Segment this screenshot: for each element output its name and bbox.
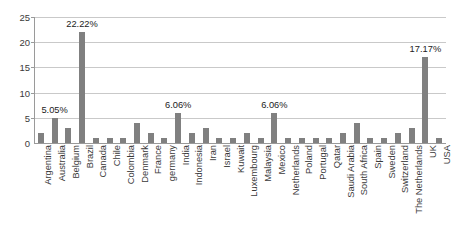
x-axis-category-label: Indonesia xyxy=(195,145,204,185)
bar xyxy=(299,138,305,143)
bar xyxy=(381,138,387,143)
bar-slot xyxy=(309,17,323,143)
bar-series: 5.05%22.22%6.06%6.06%17.17% xyxy=(34,17,446,143)
y-axis-tick-label: 15 xyxy=(0,62,30,73)
x-axis-category-label: germany xyxy=(168,145,177,181)
x-axis-category-label: Qatar xyxy=(333,145,342,168)
x-axis-category-label: Spain xyxy=(374,145,383,169)
bar xyxy=(189,133,195,143)
bar xyxy=(271,113,277,143)
bar-slot xyxy=(185,17,199,143)
x-axis-category-label: Luxembourg xyxy=(250,145,259,197)
bar-slot: 22.22% xyxy=(75,17,89,143)
bar-slot xyxy=(240,17,254,143)
y-axis-tick-label: 20 xyxy=(0,37,30,48)
x-axis-category-label: France xyxy=(154,145,163,174)
bar xyxy=(313,138,319,143)
x-axis-category-label: South Africa xyxy=(360,145,369,195)
bar xyxy=(340,133,346,143)
bar-slot xyxy=(391,17,405,143)
bar-slot: 5.05% xyxy=(48,17,62,143)
x-axis-category-label: Chile xyxy=(113,145,122,166)
x-axis-category-label: India xyxy=(182,145,191,165)
x-axis-line xyxy=(34,143,446,144)
x-axis-category-label: Argentina xyxy=(44,145,53,185)
x-axis-category-label: Denmark xyxy=(141,145,150,183)
bar-slot xyxy=(336,17,350,143)
bar-chart: 0510152025 5.05%22.22%6.06%6.06%17.17% A… xyxy=(0,0,452,235)
x-axis-category-label: Switzerland xyxy=(401,145,410,193)
y-axis-tick-label: 0 xyxy=(0,138,30,149)
bar xyxy=(161,138,167,143)
bar xyxy=(93,138,99,143)
bar-slot xyxy=(34,17,48,143)
bar xyxy=(258,138,264,143)
bar-slot xyxy=(295,17,309,143)
bar-slot xyxy=(254,17,268,143)
bar-slot xyxy=(89,17,103,143)
bar-slot xyxy=(432,17,446,143)
bar-slot xyxy=(281,17,295,143)
bar-slot xyxy=(130,17,144,143)
bar-slot xyxy=(377,17,391,143)
x-axis-category-label: Australia xyxy=(58,145,67,181)
bar-slot: 6.06% xyxy=(267,17,281,143)
bar xyxy=(395,133,401,143)
bar-slot xyxy=(322,17,336,143)
bar-slot xyxy=(144,17,158,143)
bar xyxy=(285,138,291,143)
x-axis-labels: ArgentinaAustraliaBelgiumBrazilCanadaChi… xyxy=(34,145,446,233)
x-axis-category-label: Sweden xyxy=(388,145,397,179)
x-axis-category-label: USA xyxy=(443,145,452,164)
bar-slot: 6.06% xyxy=(171,17,185,143)
bar xyxy=(107,138,113,143)
bar xyxy=(367,138,373,143)
bar xyxy=(120,138,126,143)
bar-slot xyxy=(116,17,130,143)
bar-slot: 17.17% xyxy=(419,17,433,143)
x-axis-category-label: Netherlands xyxy=(292,145,301,195)
bar xyxy=(216,138,222,143)
bar xyxy=(148,133,154,143)
bar xyxy=(134,123,140,143)
bar xyxy=(65,128,71,143)
bar-slot xyxy=(226,17,240,143)
bar xyxy=(354,123,360,143)
x-axis-category-label: Israel xyxy=(223,145,232,168)
x-axis-category-label: Saudi Arabia xyxy=(347,145,356,198)
bar xyxy=(79,32,85,143)
bar-slot xyxy=(405,17,419,143)
bar xyxy=(52,118,58,143)
x-axis-category-label: Malaysia xyxy=(264,145,273,182)
bar xyxy=(203,128,209,143)
bar-slot xyxy=(158,17,172,143)
x-axis-category-label: Colombia xyxy=(127,145,136,184)
x-axis-category-label: Kuwait xyxy=(237,145,246,173)
bar xyxy=(38,133,44,143)
bar-slot xyxy=(350,17,364,143)
x-axis-category-label: Canada xyxy=(99,145,108,178)
x-axis-category-label: The Netherlands xyxy=(415,145,424,214)
x-axis-category-label: Brazil xyxy=(86,145,95,168)
bar-slot xyxy=(103,17,117,143)
bar-slot xyxy=(213,17,227,143)
bar xyxy=(409,128,415,143)
x-axis-category-label: Portugal xyxy=(319,145,328,180)
y-axis-tick-label: 5 xyxy=(0,112,30,123)
bar xyxy=(436,138,442,143)
bar xyxy=(244,133,250,143)
bar-slot xyxy=(364,17,378,143)
y-axis-tick-label: 25 xyxy=(0,12,30,23)
bar-slot xyxy=(199,17,213,143)
x-axis-category-label: Belgium xyxy=(72,145,81,179)
bar-slot xyxy=(61,17,75,143)
x-axis-category-label: Iran xyxy=(209,145,218,161)
x-axis-category-label: UK xyxy=(429,145,438,158)
bar xyxy=(230,138,236,143)
x-axis-category-label: Mexico xyxy=(278,145,287,174)
y-axis-tick-label: 10 xyxy=(0,87,30,98)
x-axis-category-label: Poland xyxy=(305,145,314,174)
bar xyxy=(422,57,428,143)
y-axis-labels: 0510152025 xyxy=(0,17,30,143)
bar xyxy=(175,113,181,143)
